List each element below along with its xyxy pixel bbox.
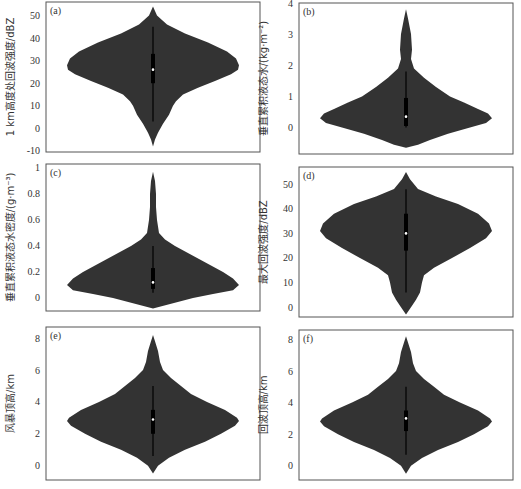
y-tick-label: 0.4 <box>28 240 41 251</box>
y-tick-label: 0.8 <box>28 188 41 199</box>
panel-label: (f) <box>303 333 313 345</box>
median-marker <box>152 68 155 71</box>
y-tick-label: 10 <box>30 100 40 111</box>
y-tick-label: 6 <box>35 365 40 376</box>
median-marker <box>152 281 155 284</box>
panel-c: (c)00.20.40.60.81垂直累积液态水密度/(g·m⁻³) <box>4 162 260 311</box>
y-axis-label: 回波顶高/km <box>257 376 269 435</box>
y-tick-label: 50 <box>30 10 40 21</box>
y-tick-label: 10 <box>283 277 293 288</box>
median-marker <box>405 232 408 235</box>
panel-e: (e)02468风暴顶高/km <box>4 327 260 480</box>
y-tick-label: 2 <box>35 428 40 439</box>
y-tick-label: 0 <box>35 123 40 134</box>
y-axis-label: 1 km高度处回波强度/dBZ <box>4 18 16 137</box>
y-axis-label: 垂直累积液态水密度/(g·m⁻³) <box>4 173 16 303</box>
iqr-box <box>404 98 408 126</box>
y-tick-label: 1 <box>288 91 293 102</box>
panel-a: (a)-10010203040501 km高度处回波强度/dBZ <box>4 2 260 156</box>
iqr-box <box>404 411 408 432</box>
y-tick-label: 0.6 <box>28 214 41 225</box>
median-marker <box>152 418 155 421</box>
violin-figure: (a)-10010203040501 km高度处回波强度/dBZ(b)01234… <box>0 0 521 489</box>
y-tick-label: 4 <box>35 396 40 407</box>
median-marker <box>405 115 408 118</box>
iqr-box <box>151 410 155 434</box>
panel-label: (d) <box>303 170 315 182</box>
y-tick-label: 40 <box>283 203 293 214</box>
iqr-box <box>151 268 155 289</box>
y-tick-label: 0 <box>35 460 40 471</box>
y-tick-label: 8 <box>35 333 40 344</box>
y-tick-label: 4 <box>288 0 293 9</box>
panel-d: (d)01020304050最大回波强度/dBZ <box>257 167 513 317</box>
y-tick-label: 20 <box>283 252 293 263</box>
y-tick-label: 30 <box>283 228 293 239</box>
y-tick-label: 2 <box>288 60 293 71</box>
y-tick-label: 6 <box>288 366 293 377</box>
y-tick-label: 0 <box>288 302 293 313</box>
panel-label: (b) <box>303 6 315 18</box>
panel-f: (f)02468回波顶高/km <box>257 330 513 480</box>
y-axis-label: 垂直累积液态水/(kg·m⁻²) <box>257 21 269 137</box>
y-axis-label: 最大回波强度/dBZ <box>257 200 269 284</box>
y-tick-label: 50 <box>283 179 293 190</box>
y-tick-label: 4 <box>288 397 293 408</box>
y-tick-label: 2 <box>288 429 293 440</box>
y-tick-label: 0 <box>288 460 293 471</box>
y-tick-label: 3 <box>288 29 293 40</box>
y-tick-label: 8 <box>288 334 293 345</box>
median-marker <box>405 417 408 420</box>
y-tick-label: 0 <box>35 292 40 303</box>
panel-label: (c) <box>50 167 61 179</box>
y-tick-label: 30 <box>30 55 40 66</box>
y-axis-label: 风暴顶高/km <box>4 374 16 433</box>
y-tick-label: 1 <box>35 162 40 173</box>
y-tick-label: 0.2 <box>28 266 41 277</box>
y-tick-label: 0 <box>288 122 293 133</box>
y-tick-label: -10 <box>27 145 40 156</box>
panel-b: (b)01234垂直累积液态水/(kg·m⁻²) <box>257 0 513 154</box>
panel-label: (a) <box>50 5 61 17</box>
y-tick-label: 40 <box>30 33 40 44</box>
y-tick-label: 20 <box>30 78 40 89</box>
panel-label: (e) <box>50 330 61 342</box>
